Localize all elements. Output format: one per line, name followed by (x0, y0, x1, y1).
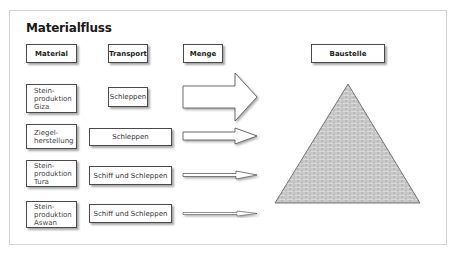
arrow-icon-thin (183, 211, 257, 216)
pyramid-icon (275, 84, 420, 203)
diagram-graphics (0, 0, 455, 253)
arrow-icon-small (183, 171, 257, 179)
arrow-icon-medium (183, 128, 257, 144)
arrow-icon-large (183, 73, 257, 121)
